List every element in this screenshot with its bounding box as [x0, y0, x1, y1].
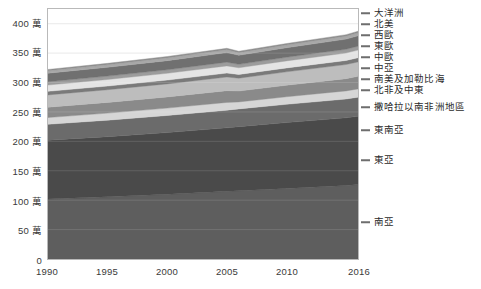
legend-label: 中歐: [374, 52, 394, 62]
y-tick-label: 250 萬: [13, 105, 43, 119]
plot-area: [47, 8, 359, 260]
legend-dash-icon: [361, 106, 370, 108]
legend-label: 大洋洲: [374, 8, 404, 18]
legend-dash-icon: [361, 45, 370, 47]
legend-item[interactable]: 南亞: [361, 217, 394, 227]
legend-item[interactable]: 東歐: [361, 41, 394, 51]
y-tick-label: 150 萬: [13, 164, 43, 178]
legend-dash-icon: [361, 129, 370, 131]
legend-dash-icon: [361, 23, 370, 25]
legend-label: 中亞: [374, 63, 394, 73]
legend: 大洋洲北美西歐東歐中歐中亞南美及加勒比海北非及中東撒哈拉以南非洲地區東南亞東亞南…: [361, 0, 481, 289]
y-axis: 050 萬100 萬150 萬200 萬250 萬300 萬350 萬400 萬: [0, 0, 47, 289]
legend-item[interactable]: 中歐: [361, 52, 394, 62]
legend-label: 北美: [374, 19, 394, 29]
legend-label: 東歐: [374, 41, 394, 51]
legend-label: 南美及加勒比海: [374, 74, 445, 84]
legend-label: 東南亞: [374, 125, 404, 135]
legend-item[interactable]: 北美: [361, 19, 394, 29]
legend-dash-icon: [361, 67, 370, 69]
legend-item[interactable]: 大洋洲: [361, 8, 404, 18]
x-tick-label: 2000: [156, 266, 178, 277]
y-tick-label: 350 萬: [13, 45, 43, 59]
legend-dash-icon: [361, 56, 370, 58]
chart-root: 050 萬100 萬150 萬200 萬250 萬300 萬350 萬400 萬…: [0, 0, 481, 289]
y-tick-label: 100 萬: [13, 194, 43, 208]
x-tick-label: 2010: [276, 266, 298, 277]
y-tick-label: 200 萬: [13, 134, 43, 148]
y-tick-label: 50 萬: [18, 223, 42, 237]
legend-dash-icon: [361, 78, 370, 80]
legend-item[interactable]: 西歐: [361, 30, 394, 40]
y-tick-label: 400 萬: [13, 16, 43, 30]
legend-dash-icon: [361, 12, 370, 14]
legend-item[interactable]: 東南亞: [361, 125, 404, 135]
legend-dash-icon: [361, 89, 370, 91]
x-tick-label: 1990: [36, 266, 58, 277]
legend-label: 撒哈拉以南非洲地區: [374, 102, 465, 112]
legend-label: 東亞: [374, 155, 394, 165]
legend-item[interactable]: 撒哈拉以南非洲地區: [361, 102, 465, 112]
legend-label: 北非及中東: [374, 85, 425, 95]
legend-item[interactable]: 中亞: [361, 63, 394, 73]
legend-dash-icon: [361, 159, 370, 161]
y-tick-label: 300 萬: [13, 75, 43, 89]
legend-item[interactable]: 東亞: [361, 155, 394, 165]
x-tick-label: 1995: [96, 266, 118, 277]
x-tick-label: 2005: [216, 266, 238, 277]
legend-dash-icon: [361, 34, 370, 36]
legend-item[interactable]: 南美及加勒比海: [361, 74, 445, 84]
legend-label: 西歐: [374, 30, 394, 40]
legend-item[interactable]: 北非及中東: [361, 85, 425, 95]
legend-label: 南亞: [374, 217, 394, 227]
stacked-area-svg: [48, 9, 358, 259]
legend-dash-icon: [361, 221, 370, 223]
